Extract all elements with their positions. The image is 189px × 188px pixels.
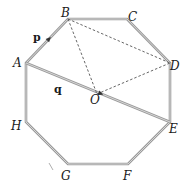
vertex-label-b: B — [60, 6, 70, 20]
vertex-label-d: D — [169, 59, 180, 73]
vertex-label-a: A — [12, 56, 22, 70]
dashed-line-od — [97, 63, 170, 94]
vertex-labels: ABCDEFGHOpq — [10, 6, 180, 183]
octagon-diagram: ABCDEFGHOpq — [0, 0, 189, 188]
dashed-line-bd — [68, 19, 170, 63]
vertex-label-f: F — [122, 169, 132, 183]
vertex-label-c: C — [128, 10, 137, 24]
vertex-label-h: H — [10, 119, 22, 133]
vector-label-p: p — [33, 31, 41, 44]
dashed-triangle-bod — [68, 19, 170, 94]
vertex-label-e: E — [168, 122, 178, 136]
vertex-label-g: G — [61, 169, 71, 183]
vector-label-q: q — [54, 83, 62, 96]
centre-label-o: O — [90, 93, 100, 107]
stray-tick-mark — [49, 163, 53, 170]
